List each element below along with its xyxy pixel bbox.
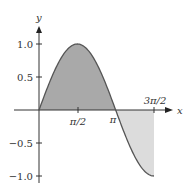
x-axis-label: x [177,105,183,116]
y-tick-label-1: 1.0 [17,39,33,50]
sine-area-chart: x y 1.0 0.5 −0.5 −1.0 π/2 π 3π/2 [0,0,192,191]
x-axis-arrow-icon [165,107,173,113]
x-tick-label-3pi-over-2: 3π/2 [144,95,167,106]
x-tick-label-pi: π [109,114,117,125]
positive-area-fill [39,44,116,110]
x-tick-label-pi-over-2: π/2 [69,116,86,127]
y-axis-arrow-icon [36,26,42,33]
y-axis-label: y [35,12,42,23]
y-tick-label-neg-1: −1.0 [9,171,33,182]
y-tick-label-0.5: 0.5 [17,72,33,83]
negative-area-fill [116,110,154,176]
y-tick-label-neg-0.5: −0.5 [9,138,33,149]
